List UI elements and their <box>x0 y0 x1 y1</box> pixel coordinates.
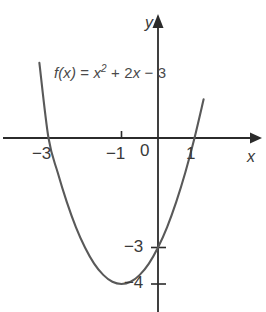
equation-plus-term: + 2 <box>111 64 133 81</box>
equation-x-var2: x <box>133 64 141 81</box>
equation-exponent: 2 <box>101 63 107 74</box>
equation-x-var: x <box>94 64 102 81</box>
equation-fx: f(x) <box>54 64 76 81</box>
equation-minus-const: − 3 <box>145 64 167 81</box>
y-axis-arrowhead <box>153 14 164 28</box>
function-equation-label: f(x) = x2 + 2x − 3 <box>54 64 166 81</box>
equation-equals: = <box>80 64 89 81</box>
x-tick-label-neg3: −3 <box>32 144 51 164</box>
x-tick-label-one: 1 <box>186 144 195 164</box>
y-tick-label-neg3: −3 <box>124 237 143 257</box>
parabola-curve <box>39 63 203 284</box>
y-axis-name: y <box>145 14 153 32</box>
x-axis-name: x <box>247 148 255 166</box>
x-axis-arrowhead <box>250 133 262 144</box>
y-tick-label-neg4: −4 <box>124 273 143 293</box>
graph-figure: f(x) = x2 + 2x − 3 −3 −1 0 1 −3 −4 x y <box>0 0 266 312</box>
x-tick-label-neg1: −1 <box>106 144 125 164</box>
origin-label: 0 <box>140 141 149 161</box>
